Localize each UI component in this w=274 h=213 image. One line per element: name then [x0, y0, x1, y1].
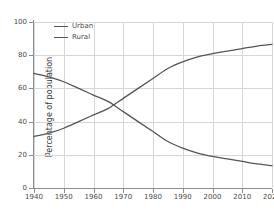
legend-item-label: Rural	[72, 33, 90, 42]
y-axis-tick	[29, 22, 33, 23]
y-axis-tick-labels: 020406080100	[0, 0, 27, 213]
x-axis-tick-label: 2020	[263, 193, 274, 201]
legend-item-rural[interactable]: Rural	[54, 33, 93, 42]
y-axis-tick-label: 60	[18, 84, 27, 92]
x-axis-tick-label: 1940	[25, 193, 43, 201]
legend-item-urban[interactable]: Urban	[54, 22, 93, 31]
legend-line-swatch-icon	[54, 37, 68, 38]
y-axis-tick	[29, 122, 33, 123]
y-axis-tick	[29, 88, 33, 89]
x-axis-tick-label: 1980	[144, 193, 162, 201]
series-line-urban	[34, 44, 272, 136]
x-axis-tick-label: 1970	[114, 193, 132, 201]
gridline-vertical	[272, 22, 273, 188]
x-axis-tick-label: 1950	[55, 193, 73, 201]
y-axis-tick-label: 20	[18, 151, 27, 159]
y-axis-tick	[29, 55, 33, 56]
y-axis-tick-label: 0	[23, 184, 27, 192]
y-axis-tick-label: 40	[18, 118, 27, 126]
x-axis-tick-label: 2010	[233, 193, 251, 201]
y-axis-tick-label: 100	[14, 18, 27, 26]
line-chart-figure: Percentage of population 020406080100 19…	[0, 0, 274, 213]
y-axis-tick	[29, 155, 33, 156]
x-axis-tick-label: 1960	[85, 193, 103, 201]
series-lines	[34, 22, 272, 188]
legend-item-label: Urban	[72, 22, 93, 31]
y-axis-tick	[29, 188, 33, 189]
legend-line-swatch-icon	[54, 26, 68, 27]
chart-legend: UrbanRural	[54, 22, 93, 42]
x-axis-tick-label: 2000	[204, 193, 222, 201]
y-axis-tick-label: 80	[18, 51, 27, 59]
series-line-rural	[34, 73, 272, 165]
x-axis-tick-label: 1990	[174, 193, 192, 201]
